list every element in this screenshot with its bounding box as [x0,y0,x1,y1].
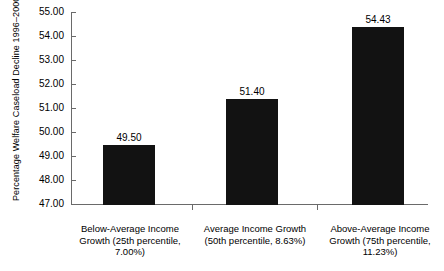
x-category-line: Above-Average Income [318,223,442,235]
x-tick-separator-1 [192,205,193,210]
y-tick-label: 55.00 [18,6,64,17]
x-category-line: 11.23%) [318,246,442,258]
bar-above-average-income-growth [352,27,404,205]
x-category-line: Below-Average Income [68,223,192,235]
bar-value-label: 51.40 [217,86,287,97]
y-tick-label: 50.00 [18,126,64,137]
bar-value-label: 49.50 [94,132,164,143]
bar-value-label: 54.43 [343,14,413,25]
x-category-line: Growth (75th percentile, [318,235,442,247]
x-category-label-2: Average Income Growth (50th percentile, … [193,223,317,246]
bar-average-income-growth [226,99,278,205]
bar-below-average-income-growth [103,145,155,205]
bar-chart: Percentage Welfare Caseload Decline 1996… [0,0,444,271]
x-category-label-1: Below-Average Income Growth (25th percen… [68,223,192,258]
y-tick-label: 47.00 [18,198,64,209]
x-category-line: (50th percentile, 8.63%) [193,235,317,247]
x-category-line: Average Income Growth [193,223,317,235]
y-tick-label: 52.00 [18,78,64,89]
x-category-label-3: Above-Average Income Growth (75th percen… [318,223,442,258]
x-category-line: Growth (25th percentile, [68,235,192,247]
y-tick-label: 53.00 [18,54,64,65]
y-tick-label: 51.00 [18,102,64,113]
y-tick-label: 54.00 [18,30,64,41]
x-category-line: 7.00%) [68,246,192,258]
x-tick-separator-2 [317,205,318,210]
y-tick-label: 49.00 [18,150,64,161]
y-tick-label: 48.00 [18,174,64,185]
